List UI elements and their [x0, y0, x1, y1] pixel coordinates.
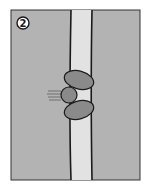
- round-object: [61, 87, 77, 103]
- step-badge: 2: [17, 17, 29, 29]
- channel-right-wall: [91, 10, 92, 180]
- step-number: 2: [20, 18, 27, 29]
- step-illustration: 2: [0, 0, 151, 189]
